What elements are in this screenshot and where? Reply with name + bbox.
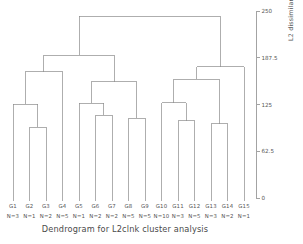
leaf-label-g12: G12	[186, 203, 204, 209]
dendrogram-link	[129, 118, 146, 198]
dendrogram-link	[13, 104, 38, 199]
y-tick-label: 0	[262, 195, 266, 201]
leaf-count-g6: N=2	[87, 213, 105, 219]
leaf-count-g4: N=5	[54, 213, 72, 219]
leaf-count-g9: N=5	[136, 213, 154, 219]
y-tick-label: 125	[262, 102, 273, 108]
leaf-label-g9: G9	[136, 203, 154, 209]
dendrogram-link	[178, 121, 195, 199]
leaf-label-g3: G3	[37, 203, 55, 209]
y-axis	[13, 11, 260, 201]
leaf-count-g7: N=2	[103, 213, 121, 219]
dendrogram-link	[79, 103, 104, 198]
leaf-label-g8: G8	[120, 203, 138, 209]
leaf-count-g15: N=1	[235, 213, 253, 219]
dendrogram-link	[25, 72, 62, 199]
leaf-label-g6: G6	[87, 203, 105, 209]
leaf-label-g10: G10	[153, 203, 171, 209]
leaf-count-g14: N=2	[219, 213, 237, 219]
leaf-label-g15: G15	[235, 203, 253, 209]
leaf-count-g3: N=2	[37, 213, 55, 219]
y-tick-label: 187.5	[262, 55, 278, 61]
dendrogram-link	[96, 115, 113, 198]
leaf-count-g13: N=3	[202, 213, 220, 219]
leaf-label-g11: G11	[169, 203, 187, 209]
leaf-label-g4: G4	[54, 203, 72, 209]
leaf-label-g14: G14	[219, 203, 237, 209]
dendrogram-link	[174, 79, 219, 123]
leaf-label-g1: G1	[4, 203, 22, 209]
dendrogram-links	[13, 16, 244, 198]
leaf-count-g5: N=1	[70, 213, 88, 219]
leaf-count-g12: N=5	[186, 213, 204, 219]
leaf-label-g13: G13	[202, 203, 220, 209]
dendrogram-link	[91, 82, 136, 119]
leaf-count-g10: N=10	[153, 213, 171, 219]
dendrogram-link	[30, 127, 47, 198]
dendrogram-link	[79, 16, 220, 66]
dendrogram-link	[44, 55, 114, 81]
dendrogram-figure: G1N=3G2N=1G3N=2G4N=5G5N=1G6N=2G7N=2G8N=5…	[0, 0, 303, 244]
leaf-label-g7: G7	[103, 203, 121, 209]
dendrogram-link	[211, 124, 228, 199]
leaf-count-g8: N=5	[120, 213, 138, 219]
leaf-label-g2: G2	[21, 203, 39, 209]
dendrogram-link	[197, 67, 244, 199]
leaf-label-g5: G5	[70, 203, 88, 209]
y-tick-label: 62.5	[262, 148, 274, 154]
leaf-count-g2: N=1	[21, 213, 39, 219]
leaf-count-g11: N=3	[169, 213, 187, 219]
y-axis-label: L2 dissimilarity measure	[287, 0, 294, 60]
leaf-count-g1: N=3	[4, 213, 22, 219]
dendrogram-link	[162, 103, 187, 199]
y-tick-label: 250	[262, 8, 273, 14]
chart-title: Dendrogram for L2clnk cluster analysis	[0, 224, 250, 234]
